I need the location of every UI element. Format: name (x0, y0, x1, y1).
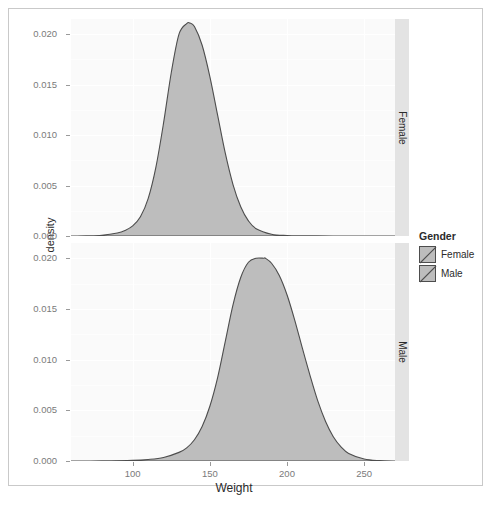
x-tick-label: 250 (344, 468, 384, 479)
legend-entry-label: Female (441, 249, 474, 260)
density-plot-image: density Female Male 0.0000.0050.0100.015… (0, 0, 493, 514)
x-tick-label: 100 (113, 468, 153, 479)
legend-entry[interactable]: Male (419, 264, 474, 283)
legend-entries: FemaleMale (419, 245, 474, 283)
legend-title: Gender (419, 230, 474, 242)
x-tick-label: 200 (267, 468, 307, 479)
legend-entry-label: Male (441, 268, 463, 279)
x-tick-mark (210, 462, 211, 466)
x-tick-mark (364, 462, 365, 466)
plot-frame: density Female Male 0.0000.0050.0100.015… (8, 8, 483, 486)
x-tick-mark (287, 462, 288, 466)
legend-key-swatch (419, 265, 436, 282)
x-tick-label: 150 (190, 468, 230, 479)
legend-entry[interactable]: Female (419, 245, 474, 264)
legend: Gender FemaleMale (419, 230, 474, 283)
legend-key-swatch (419, 246, 436, 263)
x-axis-title: Weight (69, 481, 399, 495)
x-axis-ticks: 100150200250 (9, 9, 484, 487)
x-tick-mark (133, 462, 134, 466)
